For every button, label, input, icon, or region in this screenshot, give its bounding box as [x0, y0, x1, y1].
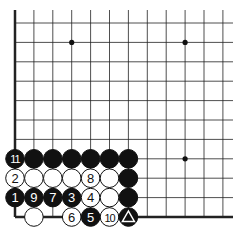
black-stone: 1: [6, 188, 25, 207]
black-stone: [119, 188, 138, 207]
star-point: [183, 156, 188, 161]
white-stone: [62, 169, 81, 188]
black-stone: [44, 150, 63, 169]
white-stone: [100, 169, 119, 188]
black-stone: [100, 150, 119, 169]
white-stone: [25, 208, 44, 227]
move-number: 11: [10, 153, 20, 165]
star-point: [183, 40, 188, 45]
black-stone: [119, 208, 138, 227]
move-number: 2: [11, 171, 18, 186]
black-stone: [119, 150, 138, 169]
move-number: 8: [87, 171, 94, 186]
move-number: 3: [68, 190, 75, 205]
move-number: 5: [87, 210, 94, 225]
black-stone: 5: [81, 208, 100, 227]
move-number: 4: [87, 190, 94, 205]
star-point: [69, 40, 74, 45]
move-number: 9: [30, 190, 37, 205]
white-stone: [100, 188, 119, 207]
go-board: 1128197346510: [0, 0, 233, 230]
move-number: 1: [11, 190, 18, 205]
move-number: 7: [49, 190, 56, 205]
black-stone: [25, 150, 44, 169]
white-stone: 8: [81, 169, 100, 188]
white-stone: 4: [81, 188, 100, 207]
black-stone: [62, 150, 81, 169]
white-stone: [44, 169, 63, 188]
move-number: 10: [104, 212, 115, 224]
black-stone: 3: [62, 188, 81, 207]
black-stone: 9: [25, 188, 44, 207]
move-number: 6: [68, 210, 75, 225]
white-stone: [25, 169, 44, 188]
black-stone: [81, 150, 100, 169]
white-stone: 6: [62, 208, 81, 227]
white-stone: 2: [6, 169, 25, 188]
black-stone: 11: [6, 150, 25, 169]
white-stone: 10: [100, 208, 119, 227]
black-stone: [119, 169, 138, 188]
black-stone: 7: [44, 188, 63, 207]
